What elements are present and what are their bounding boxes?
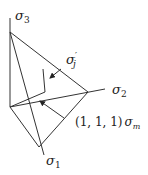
- hydrostatic-label: (1, 1, 1)σm: [75, 115, 141, 131]
- sigma1-axis: [10, 32, 44, 155]
- hydrostatic-pointer-arrow: [40, 101, 64, 118]
- sigma1-label: σ1: [46, 153, 61, 170]
- sigma2-label: σ2: [112, 82, 127, 99]
- deviatoric-pointer-arrow: [50, 69, 61, 78]
- triangle-edge-top-sigma2: [10, 32, 88, 92]
- deviatoric-label: σ′j: [66, 51, 77, 69]
- sigma2-axis: [10, 89, 105, 107]
- stress-space-diagram: σ3 σ2 σ1 σ′j (1, 1, 1)σm: [0, 0, 148, 175]
- sigma3-label: σ3: [15, 8, 30, 25]
- deviatoric-vector: [43, 69, 45, 92]
- origin-to-sigma1-edge: [10, 107, 39, 147]
